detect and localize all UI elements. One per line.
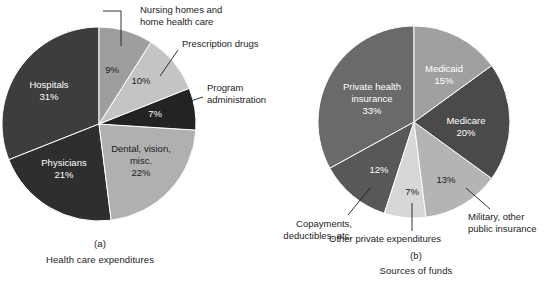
callout-program-administration: Program administration	[207, 82, 266, 106]
slice-b-private-health-label-2: insurance	[351, 93, 392, 104]
slice-b-medicaid-label: Medicaid	[425, 63, 463, 74]
pie-chart-b: Private health insurance 33% Medicaid 15…	[318, 26, 510, 231]
slice-a-physicians-label: Physicians	[41, 157, 87, 168]
callout-copayments-line2: deductibles, etc.	[280, 230, 352, 242]
slice-a-program-administration-value: 7%	[148, 108, 162, 119]
panel-a-caption: Health care expenditures	[0, 254, 200, 265]
callout-copayments: Copayments, deductibles, etc.	[280, 218, 352, 242]
slice-a-dental-label-2: misc.	[130, 155, 152, 166]
slice-b-private-health-value: 33%	[362, 105, 382, 116]
slice-a-dental-label-1: Dental, vision,	[111, 143, 171, 154]
slice-b-private-health-label-1: Private health	[343, 81, 401, 92]
slice-a-prescription-drugs-value: 10%	[131, 75, 151, 86]
callout-program-administration-line1: Program	[207, 82, 266, 94]
slice-a-hospitals-value: 31%	[39, 91, 59, 102]
slice-a-hospitals-label: Hospitals	[29, 79, 68, 90]
panel-b-caption: Sources of funds	[316, 265, 516, 276]
callout-program-administration-line2: administration	[207, 94, 266, 106]
slice-b-medicare-value: 20%	[456, 127, 476, 138]
panel-a-letter: (a)	[0, 238, 200, 249]
callout-military-other-public: Military, other public insurance	[468, 211, 537, 235]
callout-nursing-homes-line1: Nursing homes and	[140, 4, 222, 16]
pie-chart-a: Hospitals 31% Physicians 21% Dental, vis…	[2, 11, 203, 221]
callout-nursing-homes-line2: home health care	[140, 16, 222, 28]
slice-a-physicians-value: 21%	[54, 169, 74, 180]
slice-b-military-value: 13%	[436, 174, 456, 185]
panel-b-letter: (b)	[316, 250, 516, 261]
callout-prescription-drugs: Prescription drugs	[182, 38, 259, 50]
callout-military-other-public-line1: Military, other	[468, 211, 537, 223]
slice-b-other-private-value: 7%	[405, 186, 419, 197]
slice-a-nursing-homes-value: 9%	[105, 64, 119, 75]
two-pie-chart-figure: Hospitals 31% Physicians 21% Dental, vis…	[0, 0, 556, 281]
slice-b-copayments-value: 12%	[369, 164, 389, 175]
slice-b-medicare-label: Medicare	[446, 115, 485, 126]
callout-copayments-line1: Copayments,	[280, 218, 352, 230]
slice-b-medicaid-value: 15%	[434, 75, 454, 86]
callout-military-other-public-line2: public insurance	[468, 223, 537, 235]
slice-a-dental-value: 22%	[131, 167, 151, 178]
callout-prescription-drugs-line1: Prescription drugs	[182, 38, 259, 50]
callout-nursing-homes: Nursing homes and home health care	[140, 4, 222, 28]
